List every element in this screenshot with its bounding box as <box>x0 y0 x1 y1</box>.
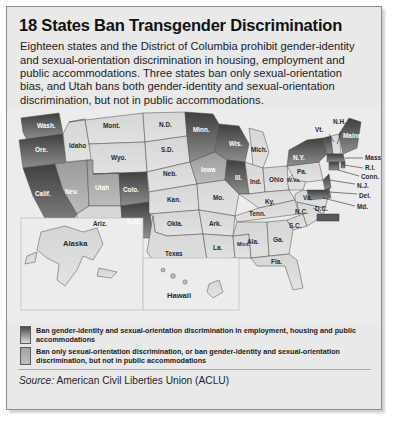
label-ala: Ala. <box>247 238 259 245</box>
page-title: 18 States Ban Transgender Discrimination <box>7 7 381 34</box>
label-sd: S.D. <box>161 146 174 153</box>
label-tenn: Tenn. <box>249 210 266 217</box>
label-nj: N.J. <box>357 182 369 189</box>
label-ark: Ark. <box>209 220 222 227</box>
hawaii-inset <box>143 258 239 310</box>
label-conn: Conn. <box>361 173 379 180</box>
label-wva: W.Va. <box>287 177 301 183</box>
label-nh: N.H. <box>333 118 346 125</box>
source-value: American Civil Liberties Union (ACLU) <box>56 375 229 386</box>
label-vt: Vt. <box>315 126 323 133</box>
label-utah: Utah <box>95 184 109 191</box>
label-mich: Mich. <box>251 146 268 153</box>
label-dc: D.C. <box>315 205 328 212</box>
label-sc: S.C. <box>289 222 302 229</box>
label-kan: Kan. <box>167 196 181 203</box>
label-minn: Minn. <box>193 126 210 133</box>
label-ri: R.I. <box>365 164 375 171</box>
legend-row: Ban only sexual-orientation discriminati… <box>20 347 369 365</box>
state-conn <box>329 162 339 170</box>
label-iowa: Iowa <box>201 166 216 173</box>
label-nm: N.M. <box>127 218 141 225</box>
label-ga: Ga. <box>273 236 284 243</box>
label-mont: Mont. <box>103 122 120 129</box>
label-del: Del. <box>359 192 371 199</box>
legend-label: Ban gender-identity and sexual-orientati… <box>36 326 369 344</box>
infographic-card: 18 States Ban Transgender Discrimination… <box>6 6 382 410</box>
description-paragraph: Eighteen states and the District of Colu… <box>7 34 381 107</box>
label-nev: Nev. <box>65 188 78 195</box>
label-texas: Texas <box>165 250 183 257</box>
alaska-inset <box>21 218 143 310</box>
label-wyo: Wyo. <box>111 154 126 162</box>
label-ohio: Ohio <box>269 176 284 183</box>
label-ind: Ind. <box>250 178 262 185</box>
label-mo: Mo. <box>213 194 224 201</box>
label-wash: Wash. <box>37 122 56 129</box>
label-ill: Ill. <box>235 174 242 181</box>
label-va: Va. <box>303 194 312 201</box>
label-alaska: Alaska <box>63 239 88 248</box>
label-ariz: Ariz. <box>93 220 107 227</box>
label-neb: Neb. <box>163 170 177 177</box>
label-fla: Fla. <box>271 258 282 265</box>
state-mass <box>327 154 345 162</box>
label-mass: Mass. <box>365 154 382 161</box>
label-md: Md. <box>357 203 368 210</box>
legend-row: Ban gender-identity and sexual-orientati… <box>20 326 369 344</box>
legend-label: Ban only sexual-orientation discriminati… <box>36 347 369 365</box>
label-colo: Colo. <box>123 186 139 193</box>
label-idaho: Idaho <box>69 142 86 149</box>
label-wis: Wis. <box>229 140 242 147</box>
legend: Ban gender-identity and sexual-orientati… <box>7 323 381 365</box>
us-map: Wash. Ore. Calif. Nev. Idaho Mont. Wyo. … <box>7 110 382 323</box>
dc-swatch <box>317 214 339 221</box>
label-la: La. <box>213 244 222 251</box>
label-nd: N.D. <box>159 121 172 128</box>
label-ore: Ore. <box>35 146 48 153</box>
label-hawaii: Hawaii <box>167 291 191 300</box>
label-nc: N.C. <box>295 208 308 215</box>
source-label: Source: <box>19 375 54 386</box>
map-svg: Wash. Ore. Calif. Nev. Idaho Mont. Wyo. … <box>7 110 382 323</box>
label-ny: N.Y. <box>293 154 305 161</box>
mid-gray-swatch <box>20 347 31 365</box>
source-line: Source: American Civil Liberties Union (… <box>7 370 381 386</box>
label-ky: Ky. <box>265 198 275 206</box>
dark-gradient-swatch <box>20 326 31 344</box>
label-okla: Okla. <box>167 220 183 227</box>
label-maine: Maine <box>343 132 362 139</box>
label-pa: Pa. <box>297 168 307 175</box>
label-calif: Calif. <box>35 190 51 197</box>
